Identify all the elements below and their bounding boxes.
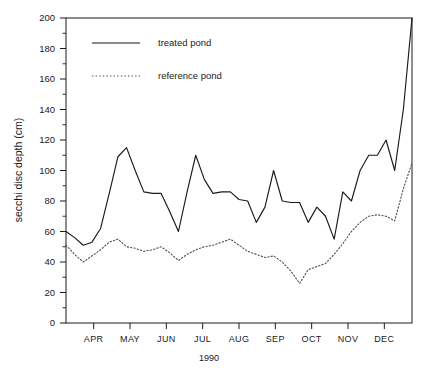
y-tick-label: 140	[39, 104, 55, 115]
x-tick-label-jun: JUN	[157, 334, 176, 344]
x-tick-label-nov: NOV	[338, 334, 359, 344]
x-tick-label-dec: DEC	[374, 334, 394, 344]
y-tick-label: 0	[50, 317, 55, 328]
x-tick-label-apr: APR	[84, 334, 104, 344]
y-tick-label: 40	[44, 256, 55, 267]
x-axis-title-year: 1990	[199, 353, 219, 363]
x-tick-label-may: MAY	[120, 334, 140, 344]
y-tick-label: 20	[44, 287, 55, 298]
x-axis-tick-labels: APRMAYJUNJULAUGSEPOCTNOVDEC	[84, 334, 395, 344]
legend-label-reference-pond: reference pond	[158, 70, 222, 81]
chart-canvas: 020406080100120140160180200 APRMAYJUNJUL…	[0, 0, 441, 372]
y-tick-label: 160	[39, 73, 55, 84]
y-tick-label: 200	[39, 12, 55, 23]
y-axis-title: secchi disc depth (cm)	[12, 118, 24, 222]
y-tick-label: 100	[39, 165, 55, 176]
x-tick-label-sep: SEP	[266, 334, 285, 344]
y-tick-label: 120	[39, 134, 55, 145]
y-tick-label: 80	[44, 195, 55, 206]
x-tick-label-jul: JUL	[194, 334, 211, 344]
y-tick-label: 60	[44, 226, 55, 237]
legend-label-treated-pond: treated pond	[158, 37, 211, 48]
y-tick-label: 180	[39, 43, 55, 54]
x-tick-label-aug: AUG	[229, 334, 250, 344]
secchi-depth-chart-figure: 020406080100120140160180200 APRMAYJUNJUL…	[0, 0, 441, 372]
x-tick-label-oct: OCT	[302, 334, 322, 344]
